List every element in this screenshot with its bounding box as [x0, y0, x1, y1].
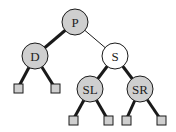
edges [18, 22, 161, 120]
leaf-node [51, 84, 60, 93]
node-sl: SL [77, 76, 103, 102]
leaf-node [157, 116, 166, 125]
node-d: D [22, 43, 48, 69]
leaf-node [104, 116, 113, 125]
leaf-node [69, 116, 78, 125]
node-label: SL [82, 82, 97, 97]
node-label: SR [132, 82, 148, 97]
node-p: P [62, 9, 88, 35]
node-label: S [111, 49, 118, 64]
node-s: S [102, 43, 128, 69]
leaf-node [122, 116, 131, 125]
tree-diagram: P D S SL SR [0, 0, 176, 132]
node-label: P [71, 15, 78, 30]
node-sr: SR [127, 76, 153, 102]
node-label: D [30, 49, 39, 64]
leaf-node [14, 84, 23, 93]
